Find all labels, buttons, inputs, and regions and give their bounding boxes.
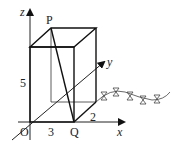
y-axis-label: y [106,55,113,69]
x-axis-label: x [116,125,123,139]
width-label: 2 [90,110,96,124]
z-axis-label: z [19,5,25,19]
rectangular-prism-diagram: z y x P Q O 5 3 2 [0,0,182,148]
top-face [30,28,96,47]
bowtie-icon [101,92,107,100]
bowtie-icon [127,92,133,100]
bowtie-icon [140,96,146,104]
segment-pq [51,28,74,122]
front-face [30,47,74,122]
length-label: 3 [48,125,54,139]
bowtie-chain [96,88,170,104]
point-p-label: P [46,13,53,27]
height-label: 5 [20,76,26,90]
origin-label: O [20,125,29,139]
bowtie-icon [113,88,119,96]
point-q-label: Q [70,125,79,139]
diagram-canvas: z y x P Q O 5 3 2 [0,0,182,148]
